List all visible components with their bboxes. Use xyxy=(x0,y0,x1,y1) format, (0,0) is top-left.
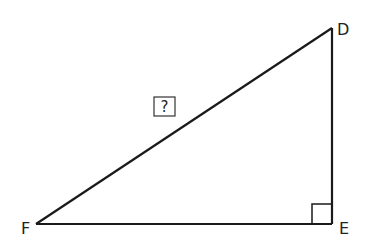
side-fd xyxy=(36,28,332,224)
right-angle-marker xyxy=(312,204,332,224)
triangle-diagram: ? D E F xyxy=(0,0,372,246)
vertex-label-f: F xyxy=(21,219,30,238)
unknown-side-label: ? xyxy=(161,98,169,116)
vertex-label-d: D xyxy=(337,20,349,39)
vertex-label-e: E xyxy=(339,219,349,238)
